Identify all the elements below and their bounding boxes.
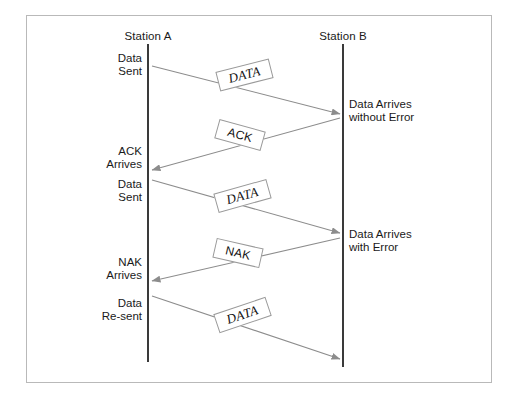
event-line: Arrives xyxy=(42,269,142,282)
event-line: Arrives xyxy=(42,158,142,171)
event-line: with Error xyxy=(349,241,479,254)
lifeline-station-a xyxy=(147,44,149,362)
event-label-data-sent-1: Data Sent xyxy=(42,52,142,77)
event-label-data-resent: Data Re-sent xyxy=(42,297,142,322)
event-label-data-arrives-ok: Data Arrives without Error xyxy=(349,98,479,123)
event-line: without Error xyxy=(349,111,479,124)
event-line: Data Arrives xyxy=(349,228,479,241)
event-line: NAK xyxy=(42,256,142,269)
event-line: ACK xyxy=(42,145,142,158)
event-label-nak-arrives: NAK Arrives xyxy=(42,256,142,281)
event-label-data-sent-2: Data Sent xyxy=(42,178,142,203)
event-line: Data xyxy=(42,178,142,191)
event-line: Data xyxy=(42,297,142,310)
event-line: Data Arrives xyxy=(349,98,479,111)
event-label-ack-arrives: ACK Arrives xyxy=(42,145,142,170)
station-b-label: Station B xyxy=(293,30,393,42)
lifeline-station-b xyxy=(342,44,344,367)
event-line: Data xyxy=(42,52,142,65)
event-line: Re-sent xyxy=(42,310,142,323)
event-line: Sent xyxy=(42,191,142,204)
diagram-canvas: Station A Station B Data Sent ACK Arrive… xyxy=(0,0,519,401)
station-a-label: Station A xyxy=(98,30,198,42)
event-line: Sent xyxy=(42,65,142,78)
event-label-data-arrives-error: Data Arrives with Error xyxy=(349,228,479,253)
